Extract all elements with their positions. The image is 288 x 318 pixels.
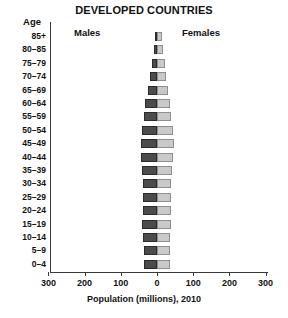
bar-female <box>157 72 166 81</box>
x-axis-tick <box>121 272 122 276</box>
pyramid-row: 30–34 <box>0 177 288 190</box>
age-group-label: 5–9 <box>4 244 46 257</box>
bar-female <box>157 179 171 188</box>
bar-male <box>143 233 157 242</box>
x-axis-tick-label: 200 <box>65 278 105 288</box>
age-group-label: 50–54 <box>4 124 46 137</box>
pyramid-row: 80–85 <box>0 43 288 56</box>
pyramid-row: 55–59 <box>0 110 288 123</box>
age-group-label: 55–59 <box>4 110 46 123</box>
x-axis-tick <box>85 272 86 276</box>
x-axis-tick-label: 100 <box>173 278 213 288</box>
pyramid-row: 75–79 <box>0 57 288 70</box>
x-axis-tick-label: 300 <box>28 278 68 288</box>
age-group-label: 60–64 <box>4 97 46 110</box>
bar-female <box>157 86 168 95</box>
x-axis-tick <box>48 272 49 276</box>
bar-male <box>141 153 157 162</box>
pyramid-row: 10–14 <box>0 231 288 244</box>
bar-male <box>145 99 157 108</box>
age-group-label: 45–49 <box>4 137 46 150</box>
x-axis-title: Population (millions), 2010 <box>0 294 288 304</box>
bar-female <box>157 59 165 68</box>
bar-male <box>143 206 157 215</box>
pyramid-row: 15–19 <box>0 218 288 231</box>
pyramid-row: 40–44 <box>0 151 288 164</box>
bar-female <box>157 246 170 255</box>
bar-female <box>157 99 170 108</box>
bar-male <box>142 166 157 175</box>
x-axis-tick-label: 0 <box>137 278 177 288</box>
bar-male <box>144 246 157 255</box>
pyramid-row: 25–29 <box>0 191 288 204</box>
bar-female <box>157 193 171 202</box>
x-axis-tick-label: 300 <box>246 278 286 288</box>
bar-female <box>157 220 171 229</box>
pyramid-row: 20–24 <box>0 204 288 217</box>
age-group-label: 15–19 <box>4 218 46 231</box>
age-group-label: 40–44 <box>4 151 46 164</box>
x-axis-tick-label: 100 <box>101 278 141 288</box>
bar-female <box>157 32 162 41</box>
bar-female <box>157 233 170 242</box>
population-pyramid-chart: DEVELOPED COUNTRIES Age Males Females 85… <box>0 0 288 318</box>
age-group-label: 0–4 <box>4 258 46 271</box>
age-group-label: 70–74 <box>4 70 46 83</box>
pyramid-row: 45–49 <box>0 137 288 150</box>
bar-male <box>144 112 157 121</box>
bar-female <box>157 45 163 54</box>
age-group-label: 20–24 <box>4 204 46 217</box>
bar-male <box>144 260 157 269</box>
pyramid-row: 85+ <box>0 30 288 43</box>
age-group-label: 25–29 <box>4 191 46 204</box>
age-group-label: 10–14 <box>4 231 46 244</box>
pyramid-row: 0–4 <box>0 258 288 271</box>
bar-male <box>148 86 157 95</box>
pyramid-row: 35–39 <box>0 164 288 177</box>
age-group-label: 80–85 <box>4 43 46 56</box>
bar-male <box>142 126 157 135</box>
bar-female <box>157 206 171 215</box>
x-axis-tick <box>157 272 158 276</box>
pyramid-row: 5–9 <box>0 244 288 257</box>
x-axis-tick <box>266 272 267 276</box>
age-group-label: 35–39 <box>4 164 46 177</box>
age-group-label: 65–69 <box>4 84 46 97</box>
bar-male <box>143 179 157 188</box>
x-axis-tick-label: 200 <box>209 278 249 288</box>
pyramid-row: 60–64 <box>0 97 288 110</box>
bar-female <box>157 112 171 121</box>
x-axis-line <box>50 272 268 273</box>
bar-male <box>150 72 157 81</box>
bar-male <box>143 193 157 202</box>
age-group-label: 85+ <box>4 30 46 43</box>
pyramid-row: 50–54 <box>0 124 288 137</box>
bar-female <box>157 126 173 135</box>
pyramid-row: 70–74 <box>0 70 288 83</box>
bar-male <box>142 220 157 229</box>
age-group-label: 30–34 <box>4 177 46 190</box>
bar-male <box>141 139 157 148</box>
pyramid-row: 65–69 <box>0 84 288 97</box>
x-axis-tick <box>229 272 230 276</box>
age-group-label: 75–79 <box>4 57 46 70</box>
bar-female <box>157 153 173 162</box>
x-axis-tick <box>193 272 194 276</box>
bar-female <box>157 139 174 148</box>
bar-female <box>157 166 172 175</box>
plot-area: 85+80–8575–7970–7465–6960–6455–5950–5445… <box>0 0 288 318</box>
bar-female <box>157 260 170 269</box>
